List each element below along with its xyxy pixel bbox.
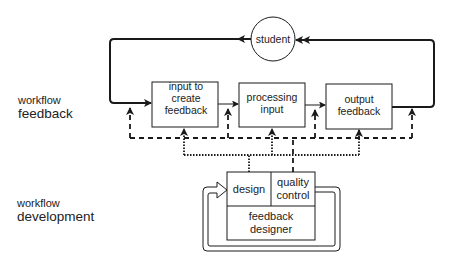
lane-development-line1: workflow [17,197,94,209]
lane-development-line2: development [17,209,94,224]
lane-label-feedback: workflow feedback [18,94,73,121]
input-label: input to create feedback [152,84,220,112]
workflow-diagram [0,0,452,265]
feedback-designer-label: feedback designer [227,206,315,240]
lane-feedback-line2: feedback [18,106,73,121]
processing-label: processing input [239,84,305,122]
quality-control-label: quality control [271,172,315,206]
design-links [184,129,359,172]
design-label: design [227,172,271,206]
output-label: output feedback [326,86,392,124]
lane-label-development: workflow development [17,197,94,224]
lane-feedback-line1: workflow [18,94,73,106]
student-label: student [251,17,295,61]
